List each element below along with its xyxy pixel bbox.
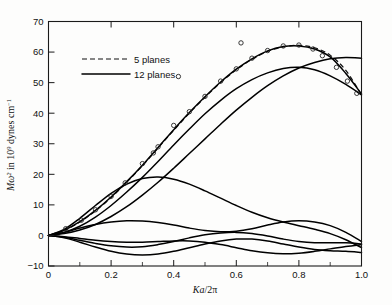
y-tick-label: 10 <box>33 199 44 210</box>
y-tick-label: 20 <box>33 169 44 180</box>
y-tick-label: 0 <box>38 230 43 241</box>
y-axis-title: Mω2 in 109 dynes cm−1 <box>5 99 17 192</box>
chart-canvas: 00.20.40.60.81.0 −10010203040506070 Ka/2… <box>0 0 392 305</box>
y-axis-title-mid: in 10 <box>5 150 16 173</box>
y-tick-label: 50 <box>33 77 44 88</box>
y-axis-title-tail: dynes cm <box>5 106 16 147</box>
x-tick-label: 0.6 <box>230 269 243 280</box>
x-tick-label: 0.8 <box>292 269 305 280</box>
y-axis-title-omega: ω <box>5 176 16 183</box>
y-tick-label: 70 <box>33 16 44 27</box>
y-tick-label: 40 <box>33 108 44 119</box>
x-tick-label: 0.4 <box>167 269 180 280</box>
y-tick-label: −10 <box>27 260 43 271</box>
y-tick-label: 30 <box>33 138 44 149</box>
x-tick-label: 0 <box>46 269 51 280</box>
y-axis-title-tail-sup: −1 <box>5 99 12 106</box>
y-tick-label: 60 <box>33 46 44 57</box>
x-axis-title-rest: /2π <box>204 284 217 295</box>
figure-background <box>0 0 392 305</box>
legend-label-12-planes: 12 planes <box>134 69 175 80</box>
x-tick-label: 0.2 <box>104 269 117 280</box>
x-axis-title: Ka/2π <box>192 284 218 295</box>
legend-label-5-planes: 5 planes <box>134 54 170 65</box>
x-tick-label: 1.0 <box>355 269 368 280</box>
phonon-dispersion-figure: 00.20.40.60.81.0 −10010203040506070 Ka/2… <box>0 0 392 305</box>
